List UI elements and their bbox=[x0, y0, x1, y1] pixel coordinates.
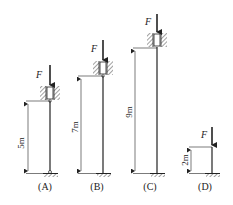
sliding-guide-icon bbox=[147, 33, 167, 47]
force-label-d: F bbox=[200, 129, 208, 140]
column-a: F 5m (A) bbox=[16, 65, 60, 193]
fixed-support-icon bbox=[96, 174, 111, 178]
fixed-support-icon bbox=[205, 174, 220, 178]
caption-a: (A) bbox=[38, 181, 52, 193]
dimension-d: 2m bbox=[180, 147, 212, 174]
pinned-support-icon bbox=[43, 171, 58, 178]
column-buckling-diagram: F 5m (A) F bbox=[0, 0, 233, 205]
force-label-c: F bbox=[144, 16, 152, 27]
force-label-a: F bbox=[35, 69, 43, 80]
dimension-b: 7m bbox=[70, 76, 103, 174]
caption-c: (C) bbox=[143, 181, 156, 193]
caption-d: (D) bbox=[198, 181, 212, 193]
length-label-d: 2m bbox=[180, 154, 190, 166]
column-c: F 9m (C) bbox=[124, 14, 167, 193]
dimension-a: 5m bbox=[16, 101, 50, 174]
sliding-guide-icon bbox=[93, 61, 113, 75]
length-label-c: 9m bbox=[124, 106, 134, 118]
force-label-b: F bbox=[90, 43, 98, 54]
length-label-b: 7m bbox=[70, 121, 80, 133]
column-b: F 7m (B) bbox=[70, 40, 113, 193]
fixed-support-icon bbox=[150, 174, 165, 178]
sliding-guide-icon bbox=[40, 86, 60, 100]
length-label-a: 5m bbox=[16, 137, 26, 149]
caption-b: (B) bbox=[90, 181, 103, 193]
dimension-c: 9m bbox=[124, 48, 157, 174]
column-d: F 2m (D) bbox=[180, 127, 220, 193]
